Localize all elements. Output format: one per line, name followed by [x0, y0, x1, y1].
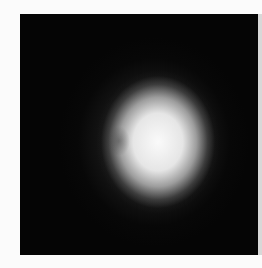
- photo-frame: [20, 14, 258, 255]
- glowing-blob: [20, 14, 258, 255]
- dark-notch: [108, 126, 130, 156]
- edge-strip: [258, 14, 262, 255]
